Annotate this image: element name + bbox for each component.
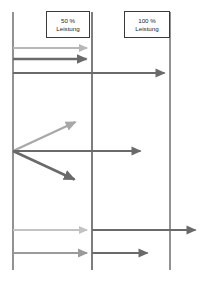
diagram-root: 50 % Leistung 100 % Leistung <box>0 0 206 283</box>
label-100-percent-value: 100 % <box>138 17 156 25</box>
arrow-fan-up-light <box>13 122 76 151</box>
label-box-100-percent: 100 % Leistung <box>124 11 170 38</box>
label-50-percent-value: 50 % <box>61 17 75 25</box>
top-arrow-group <box>13 48 165 73</box>
label-50-percent-unit: Leistung <box>56 25 79 33</box>
diagram-canvas <box>0 0 206 283</box>
arrow-fan-down-dark <box>13 151 75 180</box>
label-box-50-percent: 50 % Leistung <box>46 11 90 38</box>
fan-arrow-group <box>13 122 141 180</box>
bottom-arrow-group <box>13 230 196 253</box>
label-100-percent-unit: Leistung <box>135 25 158 33</box>
